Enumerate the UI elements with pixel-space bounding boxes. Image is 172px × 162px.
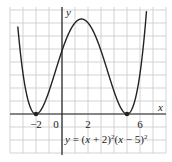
x-tick-labels: −2026 [30, 118, 143, 130]
x-tick-label: 2 [85, 118, 91, 130]
x-tick-label: −2 [30, 118, 42, 130]
equation-label: y = (x + 2)2(x − 5)2 [64, 133, 148, 146]
y-axis-label: y [65, 6, 71, 18]
graph-canvas: y x −2026 y = (x + 2)2(x − 5)2 [0, 0, 172, 162]
x-axis-label: x [157, 101, 163, 113]
x-tick-label: 6 [137, 118, 143, 130]
root-point [125, 112, 130, 117]
grid [10, 7, 166, 153]
root-point [34, 112, 39, 117]
x-tick-label: 0 [53, 118, 59, 130]
